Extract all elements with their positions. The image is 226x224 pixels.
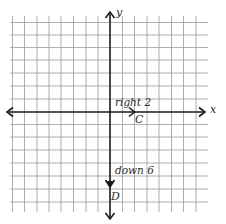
vertical-gridlines bbox=[13, 16, 197, 212]
move-label-down: down 6 bbox=[115, 165, 154, 176]
down-6-arrow bbox=[106, 180, 115, 187]
point-label-d: D bbox=[111, 191, 120, 202]
y-axis-label: y bbox=[116, 7, 122, 18]
move-label-right: right 2 bbox=[115, 97, 151, 108]
point-label-c: C bbox=[135, 114, 143, 125]
x-axis-label: x bbox=[210, 104, 216, 115]
